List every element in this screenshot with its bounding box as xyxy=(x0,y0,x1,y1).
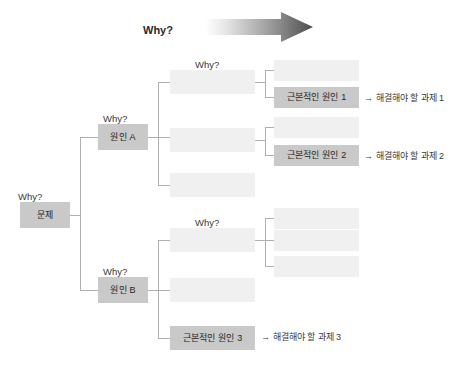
node-a2-child-1[interactable] xyxy=(274,117,359,138)
node-a1[interactable] xyxy=(170,70,255,94)
node-b1[interactable] xyxy=(170,228,255,252)
node-root-cause-3[interactable]: 근본적인 원인 3 xyxy=(170,326,255,350)
node-b1-child-3[interactable] xyxy=(274,256,359,277)
node-b2[interactable] xyxy=(170,278,255,302)
node-a3[interactable] xyxy=(170,173,255,197)
node-root-cause-1[interactable]: 근본적인 원인 1 xyxy=(274,87,359,108)
why-label-level-3-bottom: Why? xyxy=(195,218,219,228)
node-cause-a[interactable]: 원인 A xyxy=(98,124,148,150)
node-a1-child-1[interactable] xyxy=(274,60,359,81)
outcome-task-2: → 해결해야 할 과제 2 xyxy=(364,152,444,161)
node-problem[interactable]: 문제 xyxy=(20,202,70,228)
why-label-level-0: Why? xyxy=(18,192,42,202)
node-a2[interactable] xyxy=(170,128,255,152)
why-label-level-3-top: Why? xyxy=(195,60,219,70)
why-label-cause-b: Why? xyxy=(103,267,127,277)
outcome-task-1: → 해결해야 할 과제 1 xyxy=(364,94,444,103)
why-label-cause-a: Why? xyxy=(103,114,127,124)
outcome-task-3: → 해결해야 할 과제 3 xyxy=(261,333,341,342)
node-b1-child-1[interactable] xyxy=(274,208,359,229)
node-cause-b[interactable]: 원인 B xyxy=(98,277,148,303)
node-root-cause-2[interactable]: 근본적인 원인 2 xyxy=(274,145,359,166)
five-whys-diagram: Why? xyxy=(0,0,455,380)
node-b1-child-2[interactable] xyxy=(274,230,359,251)
